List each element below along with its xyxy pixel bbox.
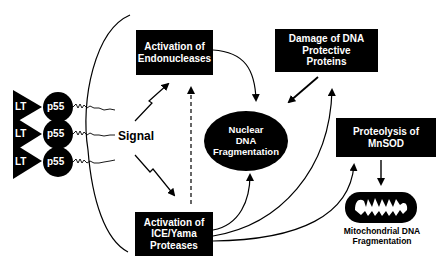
ice-to-nuclear-arrow	[213, 175, 250, 230]
node-text: Protective	[289, 45, 365, 57]
ligand-label: LT	[15, 101, 26, 112]
node-text: Mitochondrial DNA	[333, 226, 431, 236]
node-text: MnSOD	[353, 138, 419, 150]
node-text: Activation of	[138, 41, 211, 53]
node-text: Fragmentation	[333, 236, 431, 246]
node-text: Damage of DNA	[289, 33, 365, 45]
signal-to-ice-arrow	[135, 155, 174, 195]
endonucleases-to-nuclear-arrow	[213, 50, 256, 100]
receptor-tails	[73, 104, 115, 163]
node-text: Proteins	[289, 56, 365, 68]
endonucleases-box: Activation ofEndonucleases	[136, 30, 213, 75]
damage-to-nuclear-arrow	[289, 77, 318, 102]
node-text: Proteases	[144, 240, 205, 252]
dna-protective-box: Damage of DNAProtectiveProteins	[275, 29, 378, 72]
signal-to-endonucleases-arrow	[135, 84, 168, 121]
receptor-label: p55	[47, 128, 64, 139]
mitochondrion-icon	[345, 192, 417, 223]
node-text: ICE/Yama	[144, 228, 205, 240]
nuclear-dna-label: Nuclear DNA Fragmentation	[206, 124, 286, 157]
mnsod-box: Proteolysis ofMnSOD	[336, 118, 436, 157]
ligand-label: LT	[15, 156, 26, 167]
node-text: Proteolysis of	[353, 126, 419, 138]
ligand-label: LT	[15, 128, 26, 139]
node-text: Nuclear	[206, 124, 286, 135]
node-text: Fragmentation	[206, 146, 286, 157]
receptor-label: p55	[47, 156, 64, 167]
node-text: Activation of	[144, 217, 205, 229]
signal-label: Signal	[118, 129, 154, 143]
node-text: Endonucleases	[138, 53, 211, 65]
node-text: DNA	[206, 135, 286, 146]
mito-label: Mitochondrial DNA Fragmentation	[333, 226, 431, 246]
receptor-label: p55	[47, 101, 64, 112]
ice-yama-box: Activation ofICE/YamaProteases	[135, 212, 213, 256]
